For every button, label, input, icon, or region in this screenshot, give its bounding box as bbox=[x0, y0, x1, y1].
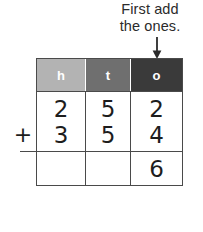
column-header-hundreds: h bbox=[37, 59, 86, 91]
caption-line-1: First add bbox=[100, 1, 200, 18]
addend2-hundreds: 3 bbox=[54, 122, 69, 148]
place-value-addition-table: h t o 2 3 5 5 2 4 bbox=[36, 58, 183, 186]
column-header-hundreds-label: h bbox=[57, 68, 65, 83]
sum-cell-hundreds[interactable] bbox=[37, 152, 86, 185]
sum-ones: 6 bbox=[149, 156, 164, 182]
sum-cell-tens[interactable] bbox=[86, 152, 131, 185]
addend1-tens: 5 bbox=[101, 96, 116, 122]
worksheet-root: First add the ones. h t o 2 3 5 bbox=[0, 0, 203, 232]
column-header-tens-label: t bbox=[106, 68, 111, 83]
addends-cell-ones: 2 4 bbox=[131, 92, 182, 151]
column-header-ones: o bbox=[131, 59, 182, 91]
addends-row: 2 3 5 5 2 4 bbox=[37, 92, 182, 152]
addend1-hundreds: 2 bbox=[54, 96, 69, 122]
column-header-tens: t bbox=[86, 59, 131, 91]
addend2-tens: 5 bbox=[101, 122, 116, 148]
plus-operator: + bbox=[12, 124, 34, 146]
addends-cell-tens: 5 5 bbox=[86, 92, 131, 151]
caption-line-2: the ones. bbox=[100, 18, 200, 35]
addends-cell-hundreds: 2 3 bbox=[37, 92, 86, 151]
column-header-ones-label: o bbox=[152, 68, 160, 83]
instruction-caption: First add the ones. bbox=[100, 1, 200, 34]
sum-row: 6 bbox=[37, 152, 182, 185]
addend2-ones: 4 bbox=[149, 122, 164, 148]
table-header-row: h t o bbox=[37, 59, 182, 92]
arrow-down-icon bbox=[150, 37, 164, 59]
addend1-ones: 2 bbox=[149, 96, 164, 122]
sum-cell-ones[interactable]: 6 bbox=[131, 152, 182, 185]
sum-rule-line bbox=[20, 151, 38, 152]
